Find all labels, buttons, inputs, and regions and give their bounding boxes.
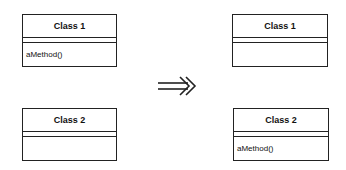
class-name: Class 1 — [233, 15, 327, 38]
after-class-2: Class 2 aMethod() — [233, 108, 329, 161]
method-name: aMethod() — [237, 144, 273, 153]
before-class-1: Class 1 aMethod() — [22, 14, 117, 67]
class-name: Class 1 — [23, 15, 116, 38]
methods-compartment — [23, 137, 116, 160]
method-name: aMethod() — [26, 50, 62, 59]
class-name: Class 2 — [23, 109, 116, 132]
methods-compartment: aMethod() — [23, 43, 116, 66]
methods-compartment: aMethod() — [234, 137, 328, 160]
before-class-2: Class 2 — [22, 108, 117, 161]
class-name: Class 2 — [234, 109, 328, 132]
after-class-1: Class 1 — [232, 14, 328, 67]
double-arrow-right-icon — [156, 75, 198, 97]
methods-compartment — [233, 43, 327, 66]
